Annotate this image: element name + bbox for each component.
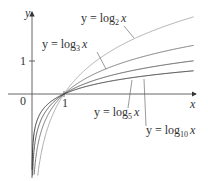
label-log10: y = log10x [144,79,196,139]
log-functions-chart: y x 0 1 1 y = log2x y = log3x y = log5x … [0,0,208,181]
svg-text:y = log10x: y = log10x [146,123,196,139]
x-axis-label: x [189,97,196,111]
svg-text:y = log2x: y = log2x [81,11,127,27]
label-log5: y = log5x [94,80,140,121]
curve-log10 [32,71,193,170]
origin-label: 0 [20,94,26,108]
svg-text:y = log3x: y = log3x [42,37,88,53]
label-log2: y = log2x [81,11,134,38]
svg-text:y = log5x: y = log5x [94,105,140,121]
x-tick-1-label: 1 [62,96,68,110]
y-tick-1-label: 1 [20,54,26,68]
label-log3: y = log3x [42,37,106,69]
y-axis-label: y [24,6,31,20]
